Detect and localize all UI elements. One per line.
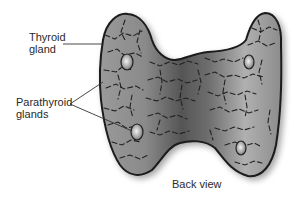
- parathyroid-lower-left: [131, 124, 143, 140]
- leader-parathyroid-upper: [70, 82, 103, 104]
- label-thyroid-gland: Thyroid gland: [29, 31, 66, 55]
- label-parathyroid-glands: Parathyroid glands: [16, 96, 72, 120]
- parathyroid-upper-right: [244, 55, 254, 69]
- parathyroid-upper-left: [121, 54, 133, 70]
- parathyroid-lower-right: [236, 141, 246, 155]
- thyroid-gland: [100, 13, 281, 176]
- label-back-view: Back view: [172, 178, 222, 190]
